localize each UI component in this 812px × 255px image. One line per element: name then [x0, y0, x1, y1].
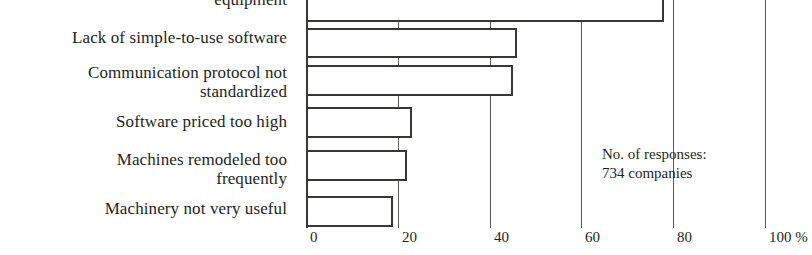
- xtick-label-80: 80: [673, 228, 692, 246]
- xtick-label-40: 40: [490, 228, 509, 246]
- responses-annotation: No. of responses: 734 companies: [602, 145, 707, 183]
- category-label-column: equipment Lack of simple-to-use software…: [0, 0, 297, 255]
- bar-software-priced-too-high: [306, 107, 412, 138]
- bar-communication-protocol-not-standardized: [306, 65, 513, 96]
- xtick-label-20: 20: [398, 228, 417, 246]
- bar-equipment: [306, 0, 664, 22]
- category-label-lack-of-simple-to-use-software: Lack of simple-to-use software: [72, 28, 287, 47]
- horizontal-bar-chart: equipment Lack of simple-to-use software…: [0, 0, 812, 255]
- bar-lack-of-simple-to-use-software: [306, 28, 517, 58]
- plot-area: 0 20 40 60 80 100 % No. of responses: 73…: [306, 0, 812, 255]
- bar-machinery-not-very-useful: [306, 196, 393, 227]
- gridline-80: [673, 0, 674, 228]
- xtick-label-0: 0: [306, 228, 318, 246]
- category-label-communication-protocol-not-standardized: Communication protocol not standardized: [88, 63, 287, 101]
- category-label-equipment: equipment: [214, 0, 287, 9]
- xtick-label-100: 100 %: [765, 228, 808, 246]
- bar-machines-remodeled-too-frequently: [306, 150, 407, 181]
- gridline-100: [765, 0, 766, 228]
- xtick-label-60: 60: [581, 228, 600, 246]
- category-label-machinery-not-very-useful: Machinery not very useful: [105, 199, 287, 218]
- category-label-machines-remodeled-too-frequently: Machines remodeled too frequently: [117, 150, 287, 188]
- category-label-software-priced-too-high: Software priced too high: [116, 112, 287, 131]
- gridline-60: [581, 0, 582, 228]
